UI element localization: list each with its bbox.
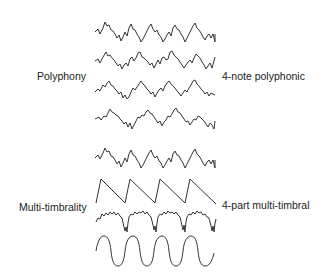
complex-wave-2 [95, 51, 215, 69]
complex-wave [95, 148, 215, 168]
waveform-diagram [0, 0, 327, 278]
polyphony-waves [95, 22, 215, 129]
complex-wave-3 [95, 80, 215, 99]
sawtooth-wave [96, 179, 216, 204]
noisy-pulse-wave [96, 211, 216, 232]
complex-wave-4 [95, 108, 215, 129]
sine-wave [96, 236, 214, 266]
multi-timbral-waves [95, 148, 216, 266]
complex-wave-1 [95, 22, 215, 42]
